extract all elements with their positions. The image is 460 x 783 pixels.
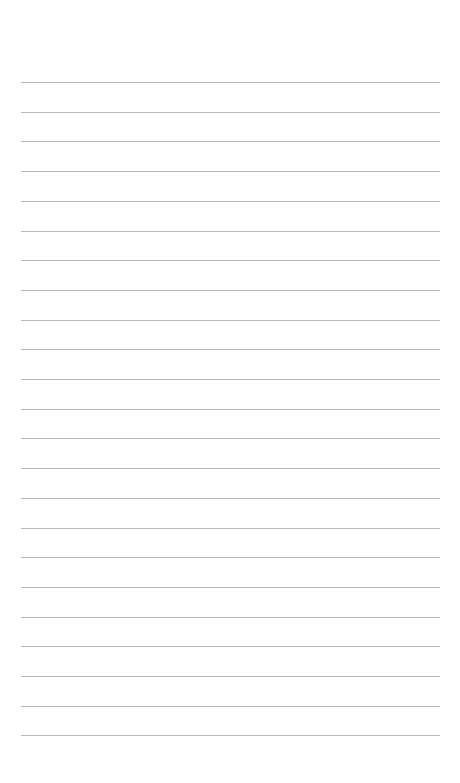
ruled-line bbox=[21, 468, 440, 469]
ruled-line bbox=[21, 141, 440, 142]
ruled-line bbox=[21, 617, 440, 618]
ruled-line bbox=[21, 290, 440, 291]
lined-paper-page bbox=[0, 0, 460, 783]
ruled-line bbox=[21, 498, 440, 499]
ruled-line bbox=[21, 231, 440, 232]
ruled-line bbox=[21, 260, 440, 261]
ruled-line bbox=[21, 201, 440, 202]
ruled-line bbox=[21, 557, 440, 558]
ruled-line bbox=[21, 349, 440, 350]
ruled-line bbox=[21, 646, 440, 647]
ruled-line bbox=[21, 438, 440, 439]
ruled-line bbox=[21, 409, 440, 410]
ruled-line bbox=[21, 676, 440, 677]
ruled-line bbox=[21, 112, 440, 113]
ruled-line bbox=[21, 320, 440, 321]
ruled-line bbox=[21, 171, 440, 172]
ruled-line bbox=[21, 379, 440, 380]
ruled-line bbox=[21, 735, 440, 736]
ruled-line bbox=[21, 587, 440, 588]
ruled-line bbox=[21, 706, 440, 707]
ruled-line bbox=[21, 82, 440, 83]
ruled-line bbox=[21, 528, 440, 529]
